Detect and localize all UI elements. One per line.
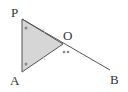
label-p: P: [11, 6, 18, 19]
shaded-triangle-pao: [22, 19, 63, 72]
angle-mark-o-2: [67, 51, 70, 54]
label-b: B: [110, 73, 119, 86]
label-o: O: [63, 29, 72, 42]
angle-mark-o-1: [63, 51, 66, 54]
angle-mark-p: [25, 27, 28, 30]
angle-mark-a: [25, 63, 28, 66]
label-a: A: [10, 74, 19, 87]
geometry-diagram: P A O B: [0, 0, 128, 92]
